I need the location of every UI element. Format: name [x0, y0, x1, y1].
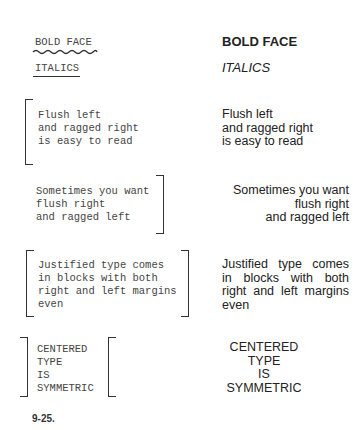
- flush-left-result: Flush left and ragged right is easy to r…: [222, 108, 313, 149]
- right-bracket: [181, 250, 189, 317]
- bold-markup-text: BOLD FACE: [35, 36, 92, 49]
- centered-result: CENTERED TYPE IS SYMMETRIC: [222, 341, 306, 395]
- flush-right-markup: Sometimes you want flush right and ragge…: [36, 185, 149, 224]
- figure-caption: 9-25.: [32, 413, 55, 424]
- left-bracket: [108, 337, 116, 397]
- left-bracket: [26, 250, 34, 317]
- right-bracket: [156, 175, 164, 234]
- centered-markup: CENTERED TYPE IS SYMMETRIC: [37, 343, 94, 395]
- wavy-underline-icon: [32, 49, 98, 55]
- bold-result-text: BOLD FACE: [222, 35, 297, 49]
- right-bracket: [20, 337, 28, 397]
- flush-left-markup: Flush left and ragged right is easy to r…: [38, 109, 139, 148]
- straight-underline: [33, 76, 80, 77]
- left-bracket: [25, 99, 33, 165]
- italics-markup-text: ITALICS: [35, 62, 79, 75]
- justified-markup: Justified type comes in blocks with both…: [38, 259, 177, 311]
- justified-result: Justified type comes in blocks with both…: [222, 258, 349, 312]
- flush-right-result: Sometimes you want flush right and ragge…: [222, 184, 349, 225]
- italics-result-text: ITALICS: [222, 61, 270, 75]
